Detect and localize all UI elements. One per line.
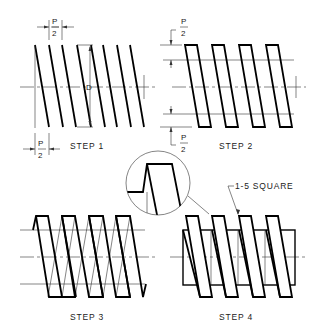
step-2-view bbox=[160, 30, 306, 145]
svg-text:2: 2 bbox=[181, 29, 186, 38]
diameter-label: D bbox=[86, 83, 92, 92]
step-3-label: STEP 3 bbox=[70, 312, 104, 322]
step-4-view bbox=[170, 186, 308, 297]
step-3-view bbox=[20, 216, 158, 297]
square-callout-label: 1-5 SQUARE bbox=[235, 181, 294, 191]
svg-text:P: P bbox=[52, 17, 57, 26]
fraction-top-step1: P 2 bbox=[51, 17, 59, 38]
step-2-label: STEP 2 bbox=[219, 141, 253, 151]
svg-text:P: P bbox=[181, 133, 186, 142]
square-thread-drawing: P 2 P 2 D P 2 P 2 STEP 1 STEP 2 STEP 3 S… bbox=[0, 0, 321, 335]
svg-text:P: P bbox=[38, 139, 43, 148]
fraction-top-step2: P 2 bbox=[180, 17, 188, 38]
svg-text:2: 2 bbox=[38, 151, 43, 160]
step-1-label: STEP 1 bbox=[70, 141, 104, 151]
svg-text:P: P bbox=[181, 17, 186, 26]
svg-text:2: 2 bbox=[181, 145, 186, 154]
fraction-bottom-step1: P 2 bbox=[38, 139, 43, 160]
fraction-bottom-step2: P 2 bbox=[180, 133, 188, 154]
svg-text:2: 2 bbox=[52, 29, 57, 38]
step-4-label: STEP 4 bbox=[219, 312, 253, 322]
